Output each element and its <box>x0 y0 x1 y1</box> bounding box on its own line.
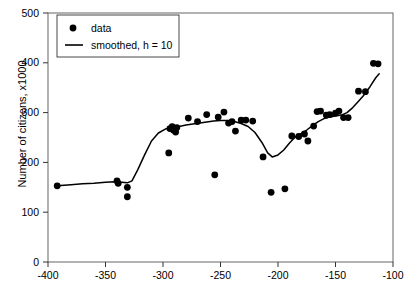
y-tick-label: 0 <box>33 256 39 268</box>
data-point <box>124 193 131 200</box>
data-point <box>173 124 180 131</box>
data-point <box>355 88 362 95</box>
data-point-group <box>54 60 382 200</box>
data-point <box>345 114 352 121</box>
data-point <box>194 118 201 125</box>
data-point <box>268 189 275 196</box>
data-point <box>185 115 192 122</box>
legend-label-data: data <box>91 22 112 34</box>
chart-figure: Number of citizens, x1000 01002003004005… <box>0 0 417 294</box>
data-point <box>242 117 249 124</box>
data-point <box>317 108 324 115</box>
data-point <box>229 118 236 125</box>
x-tick-label: -200 <box>267 269 288 281</box>
data-point <box>375 60 382 67</box>
data-point <box>336 108 343 115</box>
legend-label-smoothed: smoothed, h = 10 <box>91 39 173 51</box>
data-point <box>260 154 267 161</box>
data-point <box>301 131 308 138</box>
x-tick-label: -300 <box>152 269 173 281</box>
data-point <box>362 88 369 95</box>
data-point <box>288 133 295 140</box>
x-tick-label: -150 <box>325 269 346 281</box>
scatter-plot-canvas: 0100200300400500-400-350-300-250-200-150… <box>0 0 417 294</box>
data-point <box>165 150 172 157</box>
x-tick-label: -250 <box>210 269 231 281</box>
data-point <box>249 118 256 125</box>
data-point <box>232 128 239 135</box>
data-point <box>310 123 317 130</box>
data-point <box>221 109 228 116</box>
legend-marker-data <box>70 25 77 32</box>
x-tick-label: -100 <box>382 269 403 281</box>
data-point <box>124 184 131 191</box>
x-tick-label: -400 <box>37 269 58 281</box>
smoothed-line <box>57 74 379 186</box>
data-point <box>282 185 289 192</box>
data-point <box>326 111 333 118</box>
data-point <box>305 138 312 145</box>
data-point <box>115 180 122 187</box>
data-point <box>203 111 210 118</box>
y-axis-title: Number of citizens, x1000 <box>16 24 28 224</box>
data-point <box>211 171 218 178</box>
data-point <box>54 182 61 189</box>
data-point <box>215 114 222 121</box>
y-tick-label: 500 <box>21 7 39 19</box>
legend: datasmoothed, h = 10 <box>57 15 179 57</box>
x-tick-label: -350 <box>95 269 116 281</box>
